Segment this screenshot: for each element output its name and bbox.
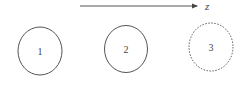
node-3: 3 [189, 23, 233, 71]
node-2: 2 [105, 26, 148, 73]
node-label: 2 [124, 44, 129, 55]
node-1: 1 [18, 27, 62, 75]
z-axis-label: z [204, 0, 210, 12]
diagram-canvas: z 1 2 3 [0, 0, 247, 102]
z-axis-arrow: z [80, 0, 210, 12]
node-label: 3 [209, 42, 214, 53]
node-label: 1 [38, 46, 43, 57]
